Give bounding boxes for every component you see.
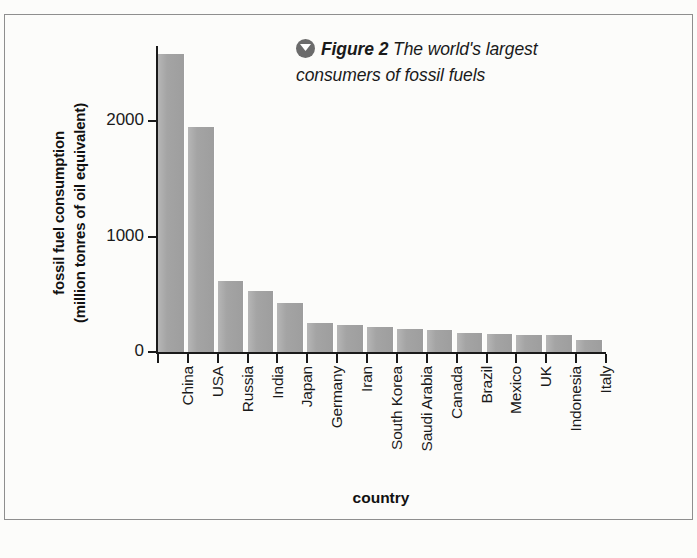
x-axis-tick [187,354,189,363]
x-axis-tick [366,354,368,363]
x-axis-title: country [156,489,606,507]
x-axis-category-label: Indonesia [567,366,585,431]
x-axis-tick [426,354,428,363]
y-axis-tick [148,236,157,238]
x-axis-category-label: UK [537,366,555,387]
x-axis-tick [306,354,308,363]
x-axis-category-label: South Korea [388,366,406,450]
x-axis-category-label: Mexico [507,366,525,414]
x-axis-category-label: Germany [328,366,346,428]
y-axis-tick-label: 2000 [86,110,144,130]
x-axis-tick [217,354,219,363]
bar [307,323,334,352]
x-axis-tick [396,354,398,363]
x-axis-tick [575,354,577,363]
x-axis-category-label: USA [209,366,227,397]
x-axis-category-label: India [269,366,287,399]
y-axis-tick [148,120,157,122]
y-axis-tick-labels: 010002000 [82,0,144,400]
y-axis-tick-label: 1000 [86,226,144,246]
bar [516,335,543,352]
x-axis-category-label: Iran [358,366,376,392]
bar-chart: fossil fuel consumption (million tonres … [0,0,697,558]
bar [337,325,364,352]
y-axis-tick-label: 0 [86,341,144,361]
bar [158,54,185,352]
bar-series [158,46,606,352]
x-axis-category-label: Japan [298,366,316,407]
x-axis-tick [276,354,278,363]
x-axis-category-label: Russia [239,366,257,412]
x-axis-tick [336,354,338,363]
x-axis-tick [545,354,547,363]
x-axis-category-label: Italy [597,366,615,393]
bar [576,340,603,352]
x-axis-category-label: Saudi Arabia [418,366,436,452]
x-axis-tick [157,354,159,363]
bar [218,281,245,352]
bar [277,303,304,352]
x-axis-tick [486,354,488,363]
x-axis-category-label: Canada [448,366,466,419]
x-axis-tick [605,354,607,363]
bar [188,127,215,352]
x-axis-category-labels: ChinaUSARussiaIndiaJapanGermanyIranSouth… [158,366,608,486]
x-axis-tick [515,354,517,363]
bar [487,334,514,352]
x-axis-tick [247,354,249,363]
bar [457,333,484,352]
x-axis-ticks [158,354,608,364]
bar [397,329,424,352]
bar [248,291,275,352]
bar [367,327,394,352]
y-axis-tick [148,351,157,353]
y-axis-title-line-1: fossil fuel consumption [48,48,69,378]
x-axis-tick [456,354,458,363]
x-axis-category-label: China [179,366,197,406]
bar [427,330,454,352]
x-axis-category-label: Brazil [478,366,496,404]
bar [546,335,573,352]
